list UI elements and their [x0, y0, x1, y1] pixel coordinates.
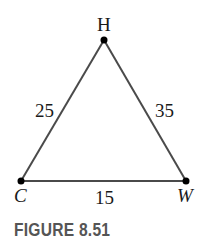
vertex-c-label: C [14, 185, 27, 206]
side-cw-label: 15 [95, 187, 114, 208]
side-hw-label: 35 [155, 100, 174, 121]
vertex-h-point [101, 37, 108, 44]
vertex-c-point [18, 178, 25, 185]
side-ch [21, 40, 104, 181]
side-ch-label: 25 [35, 100, 54, 121]
figure-caption: FIGURE 8.51 [14, 219, 110, 241]
vertex-h-label: H [97, 14, 111, 35]
triangle-diagram: H C W 25 35 15 [0, 0, 200, 247]
vertex-w-label: W [177, 185, 195, 206]
vertex-w-point [183, 178, 190, 185]
